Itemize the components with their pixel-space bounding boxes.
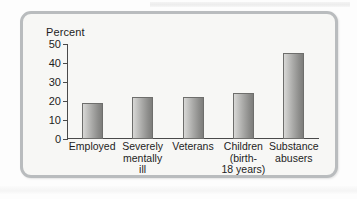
y-axis-tick xyxy=(63,139,68,140)
x-axis-category-label: Employed xyxy=(65,141,119,153)
y-axis-tick-label: 50 xyxy=(35,39,61,50)
bar xyxy=(233,93,254,139)
x-axis-category-label: Veterans xyxy=(166,141,220,153)
plot-area: Percent 01020304050 EmployedSeverely men… xyxy=(23,14,335,175)
scan-artifact-top xyxy=(150,2,350,7)
bar xyxy=(183,97,204,139)
y-axis-tick-label: 10 xyxy=(35,115,61,126)
y-axis-tick-label: 0 xyxy=(35,134,61,145)
y-axis-tick-label: 30 xyxy=(35,77,61,88)
x-axis-category-label: Substance abusers xyxy=(267,141,321,164)
chart-screenshot: Percent 01020304050 EmployedSeverely men… xyxy=(0,0,357,199)
y-axis-tick-label: 40 xyxy=(35,58,61,69)
x-axis-category-label: Severely mentally ill xyxy=(115,141,169,176)
bar xyxy=(82,103,103,139)
scan-artifact-bottom xyxy=(0,186,357,194)
x-axis-category-label: Children (birth- 18 years) xyxy=(216,141,270,176)
figure-frame: Percent 01020304050 EmployedSeverely men… xyxy=(20,11,338,178)
y-axis-title: Percent xyxy=(46,26,85,38)
x-axis-category-labels: EmployedSeverely mentally illVeteransChi… xyxy=(67,141,327,183)
bar-series xyxy=(67,44,319,139)
bar xyxy=(283,53,304,139)
y-axis-tick-label: 20 xyxy=(35,96,61,107)
bar xyxy=(132,97,153,139)
